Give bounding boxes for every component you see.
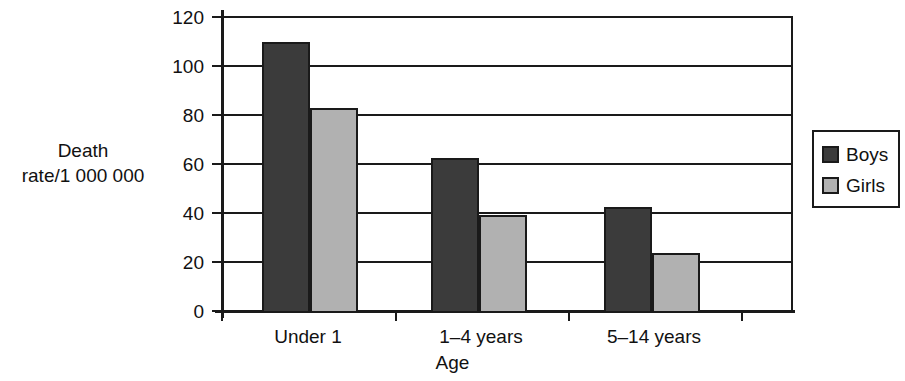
legend-label-boys: Boys: [846, 145, 888, 164]
y-axis-title-line-1: Death: [8, 138, 158, 163]
gridline-120: [221, 16, 793, 18]
y-tick-label-100: 100: [140, 57, 204, 76]
bar-boys-under-1: [262, 42, 310, 313]
x-tick-mark-1: [395, 312, 397, 321]
x-tick-mark-0: [221, 312, 223, 321]
x-tick-mark-2: [568, 312, 570, 321]
legend-item-girls: Girls: [822, 170, 898, 201]
y-tick-label-80: 80: [140, 106, 204, 125]
legend-label-girls: Girls: [846, 176, 885, 195]
bar-girls-1-4-years: [479, 215, 527, 313]
bar-girls-under-1: [310, 108, 358, 313]
y-tick-label-60: 60: [140, 155, 204, 174]
legend-swatch-boys-icon: [822, 146, 839, 163]
y-tick-mark-80: [212, 114, 222, 116]
x-tick-label-under-1: Under 1: [218, 326, 398, 347]
y-tick-label-20: 20: [140, 253, 204, 272]
chart-figure: Death rate/1 000 000 120 100 80 60 40 20…: [0, 0, 905, 381]
x-tick-label-1-4-years: 1–4 years: [391, 326, 571, 347]
y-tick-label-40: 40: [140, 204, 204, 223]
bar-boys-1-4-years: [431, 158, 479, 313]
x-tick-mark-3: [741, 312, 743, 321]
chart-legend: Boys Girls: [812, 130, 900, 208]
bar-boys-5-14-years: [604, 207, 652, 313]
x-axis-title: Age: [0, 352, 905, 374]
y-tick-mark-60: [212, 163, 222, 165]
legend-item-boys: Boys: [822, 139, 898, 170]
y-tick-label-0: 0: [140, 302, 204, 321]
y-tick-mark-20: [212, 261, 222, 263]
legend-swatch-girls-icon: [822, 177, 839, 194]
plot-right-border: [791, 16, 793, 312]
x-tick-label-5-14-years: 5–14 years: [564, 326, 744, 347]
y-tick-label-120: 120: [140, 8, 204, 27]
y-axis-title-line-2: rate/1 000 000: [8, 163, 158, 188]
bar-girls-5-14-years: [652, 253, 700, 313]
y-axis-title: Death rate/1 000 000: [8, 138, 158, 188]
y-tick-mark-40: [212, 212, 222, 214]
y-tick-mark-120: [212, 16, 222, 18]
y-tick-mark-100: [212, 65, 222, 67]
